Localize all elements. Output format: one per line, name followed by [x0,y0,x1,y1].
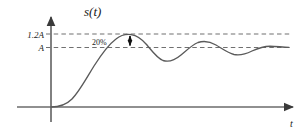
overshoot-percent-label: 20% [92,39,107,47]
y-tick-label-overshoot: 1.2A [6,31,44,40]
y-tick-label-steady-state: A [6,44,44,53]
response-curve [51,34,289,107]
x-axis-label: t [290,119,293,129]
plot-title: s(t) [84,5,101,18]
step-response-figure: s(t) 1.2A A 20% t [0,0,306,138]
plot-canvas [0,0,306,138]
